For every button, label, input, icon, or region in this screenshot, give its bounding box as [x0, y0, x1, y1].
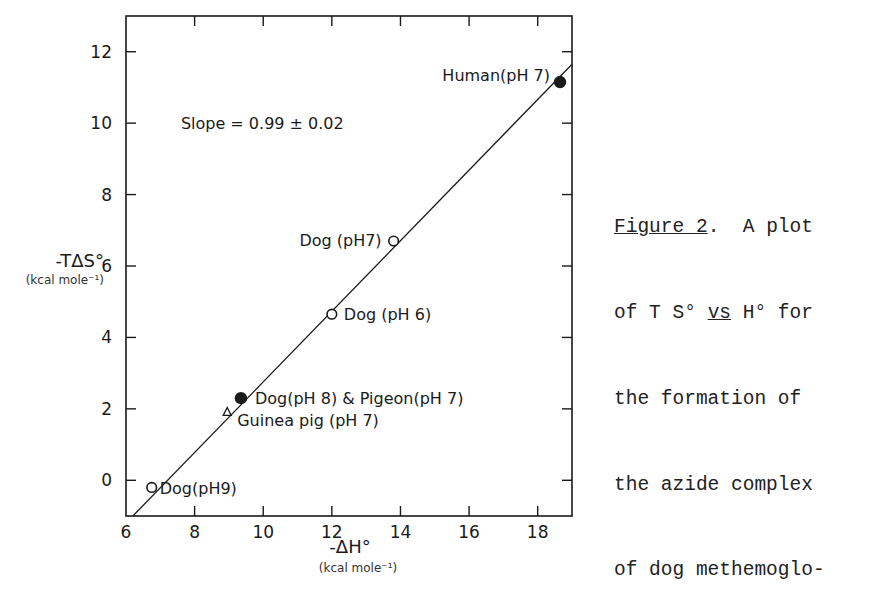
caption-line-4: the azide complex: [614, 471, 874, 500]
x-tick-label: 14: [390, 522, 412, 542]
x-tick-label: 6: [121, 522, 132, 542]
plot-border: [126, 16, 572, 516]
point-label: Dog (pH 6): [344, 305, 431, 324]
point-label: Human(pH 7): [442, 66, 550, 85]
triangle-marker: [223, 407, 231, 415]
y-tick-label: 8: [101, 185, 112, 205]
y-tick-label: 0: [101, 470, 112, 490]
caption-line-5: of dog methemoglo-: [614, 556, 874, 585]
figure-caption: Figure 2. A plot of T S° vs H° for the f…: [614, 156, 874, 591]
x-axis-units: (kcal mole⁻¹): [319, 561, 397, 575]
filled-circle-marker: [554, 76, 566, 88]
caption-line-3: the formation of: [614, 385, 874, 414]
y-axis-units: (kcal mole⁻¹): [26, 273, 104, 287]
open-circle-marker: [389, 236, 399, 246]
open-circle-marker: [147, 483, 157, 493]
caption-text: H° for: [731, 302, 813, 324]
caption-period: .: [708, 216, 743, 238]
caption-text: A plot: [743, 216, 813, 238]
y-tick-label: 12: [90, 42, 112, 62]
y-axis-label: -TΔS°: [55, 250, 104, 271]
caption-text: of T S°: [614, 302, 708, 324]
y-tick-label: 4: [101, 327, 112, 347]
point-label: Dog(pH 8) & Pigeon(pH 7): [255, 389, 463, 408]
x-axis-label: -ΔH°: [329, 536, 370, 557]
x-tick-label: 10: [252, 522, 274, 542]
x-tick-label: 16: [458, 522, 480, 542]
open-circle-marker: [327, 309, 337, 319]
filled-circle-marker: [235, 392, 247, 404]
point-label: Guinea pig (pH 7): [237, 411, 379, 430]
scatter-chart: 681012141618024681012 Dog (pH 6)Dog (pH7…: [0, 0, 600, 591]
caption-line-2: of T S° vs H° for: [614, 299, 874, 328]
axis-ticks: [126, 16, 572, 516]
plot-frame: [126, 16, 572, 516]
point-label: Dog (pH7): [299, 231, 381, 250]
y-tick-label: 2: [101, 399, 112, 419]
figure-label: Figure 2: [614, 216, 708, 238]
y-tick-label: 10: [90, 113, 112, 133]
slope-annotation: Slope = 0.99 ± 0.02: [181, 114, 344, 133]
point-label: Dog(pH9): [160, 479, 237, 498]
caption-line-1: Figure 2. A plot: [614, 213, 874, 242]
x-tick-label: 8: [189, 522, 200, 542]
x-tick-label: 18: [527, 522, 549, 542]
caption-vs: vs: [708, 302, 731, 324]
